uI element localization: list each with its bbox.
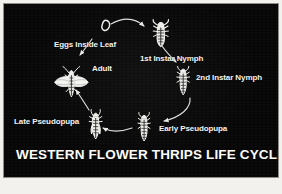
- thrips-life-cycle-figure: Eggs Inside Leaf 1st Instar Nymph 2nd In…: [0, 0, 282, 194]
- arrow-late-pseudopupa-to-adult: [76, 90, 89, 110]
- stage-label-first-instar: 1st Instar Nymph: [140, 54, 203, 63]
- stage-label-second-instar: 2nd Instar Nymph: [196, 73, 262, 82]
- arrow-second-instar-to-early-pseudopupa: [164, 98, 190, 121]
- thrips-egg-icon: [102, 20, 110, 30]
- stage-label-eggs: Eggs Inside Leaf: [54, 40, 116, 49]
- diagram-panel: Eggs Inside Leaf 1st Instar Nymph 2nd In…: [3, 3, 279, 178]
- cycle-arrows: [76, 19, 190, 131]
- early-pseudopupa-icon: [138, 113, 150, 142]
- stage-label-early-pseudopupa: Early Pseudopupa: [159, 124, 227, 133]
- late-pseudopupa-icon: [89, 110, 102, 140]
- first-instar-nymph-icon: [153, 19, 168, 46]
- adult-thrips-icon: [55, 67, 89, 97]
- arrow-eggs-to-first-instar: [111, 19, 144, 26]
- stage-label-late-pseudopupa: Late Pseudopupa: [14, 117, 79, 126]
- figure-title: WESTERN FLOWER THRIPS LIFE CYCLE: [16, 147, 279, 162]
- arrow-early-to-late-pseudopupa: [103, 128, 132, 131]
- stage-label-adult: Adult: [92, 64, 112, 73]
- second-instar-nymph-icon: [177, 66, 190, 95]
